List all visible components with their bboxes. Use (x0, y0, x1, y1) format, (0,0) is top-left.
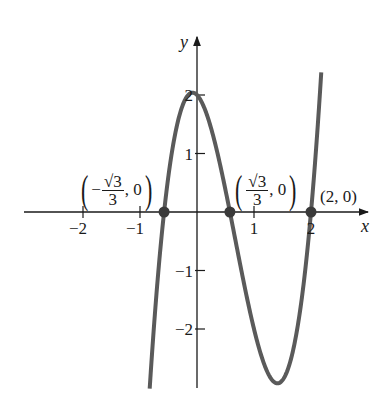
left-paren: ( (81, 170, 88, 210)
point-label-sqrt3-over-3: ( √33 , 0 ) (232, 170, 300, 210)
right-paren: ) (289, 170, 296, 210)
x-tick-label: 1 (250, 219, 259, 238)
x-tick-label: −2 (69, 219, 87, 238)
x-tick-label: −1 (126, 219, 144, 238)
point-label-neg-sqrt3-over-3: ( − √33 , 0 ) (78, 170, 155, 210)
zero-point (159, 207, 170, 218)
comma: , (125, 180, 134, 200)
x-tick-label: 2 (307, 219, 316, 238)
y-tick-label: 2 (185, 86, 194, 105)
comma: , (269, 180, 278, 200)
numerator: √3 (102, 173, 124, 191)
sign: − (91, 180, 101, 200)
y-tick-label: −2 (175, 320, 193, 339)
chart-canvas: −2−112−2−112 x y (2, 0) (0, 0, 387, 411)
zero-point (306, 207, 317, 218)
function-curve (150, 72, 322, 388)
y-value: 0 (133, 180, 142, 200)
x-axis-label: x (360, 216, 369, 236)
denominator: 3 (253, 191, 262, 208)
y-tick-label: −1 (175, 262, 193, 281)
y-axis-label: y (178, 32, 188, 52)
numerator: √3 (246, 173, 268, 191)
y-tick-label: 1 (185, 145, 194, 164)
left-paren: ( (235, 170, 242, 210)
right-paren: ) (145, 170, 152, 210)
y-value: 0 (278, 180, 287, 200)
point-label-2-0: (2, 0) (320, 187, 357, 206)
denominator: 3 (109, 191, 118, 208)
